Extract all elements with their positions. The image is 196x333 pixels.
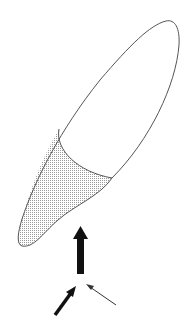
tooth-diagram (0, 0, 196, 333)
vertical-force-arrow (73, 226, 88, 274)
shaded-region (18, 129, 112, 246)
right-oblique-arrow (86, 284, 116, 305)
left-oblique-arrow (55, 286, 76, 315)
